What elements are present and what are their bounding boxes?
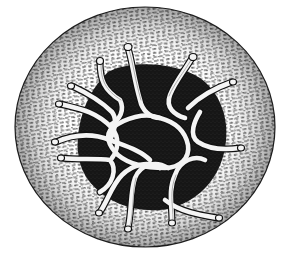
organism-illustration <box>0 0 290 257</box>
etching-drawing <box>0 0 290 257</box>
